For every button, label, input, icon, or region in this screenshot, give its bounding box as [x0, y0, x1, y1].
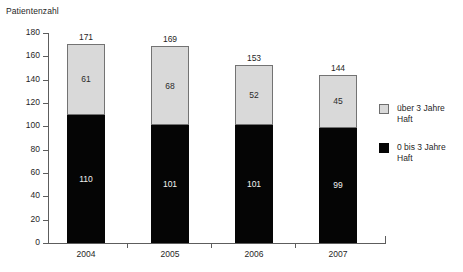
bar-segment-lower: 101: [151, 125, 189, 243]
y-axis-tick-label: 0: [35, 237, 40, 247]
chart-legend: über 3 JahreHaft0 bis 3 JahreHaft: [379, 103, 461, 181]
legend-item-label: 0 bis 3 Jahre: [397, 142, 461, 153]
y-axis-tick-label: 160: [26, 50, 40, 60]
bar-segment-upper-value: 68: [152, 81, 188, 91]
y-axis-tick-label: 100: [26, 120, 40, 130]
y-axis-tick: [43, 103, 48, 104]
bar-segment-lower: 110: [67, 115, 105, 243]
y-axis-tick-label: 180: [26, 27, 40, 37]
bar-segment-upper: 61: [67, 44, 105, 115]
y-axis-tick-label: 120: [26, 97, 40, 107]
plot-area: 180160140120100806040200 110611711016816…: [48, 33, 385, 243]
bar-segment-upper: 45: [319, 75, 357, 128]
legend-item-label: über 3 Jahre: [397, 103, 461, 114]
legend-swatch-black: [379, 143, 389, 153]
y-axis-tick: [43, 150, 48, 151]
bar-segment-lower-value: 101: [235, 179, 273, 189]
bar-total-value: 144: [319, 63, 357, 73]
bar-segment-lower: 99: [319, 128, 357, 244]
bar-total-value: 169: [151, 34, 189, 44]
y-axis-tick: [43, 126, 48, 127]
y-axis-tick: [43, 220, 48, 221]
x-axis-end-tick: [385, 236, 386, 244]
y-axis-tick-label: 60: [31, 167, 40, 177]
x-axis-tick: [127, 243, 128, 248]
x-axis-tick: [211, 243, 212, 248]
x-axis-category-label: 2006: [225, 249, 283, 259]
bar-total-value: 153: [235, 53, 273, 63]
legend-item-label-line2: Haft: [397, 114, 461, 125]
x-axis-category-label: 2007: [309, 249, 367, 259]
bar-stack: 11061171: [67, 44, 105, 244]
legend-item[interactable]: über 3 JahreHaft: [379, 103, 461, 124]
y-axis-tick-label: 40: [31, 190, 40, 200]
bar-segment-upper-value: 45: [320, 96, 356, 106]
legend-swatch-gray: [379, 104, 389, 114]
y-axis-tick-label: 140: [26, 74, 40, 84]
stacked-bar-chart: Patientenzahl 180160140120100806040200 1…: [0, 0, 463, 272]
y-axis-tick: [43, 33, 48, 34]
y-axis-tick: [43, 56, 48, 57]
legend-item[interactable]: 0 bis 3 JahreHaft: [379, 142, 461, 163]
bar-segment-upper-value: 61: [68, 74, 104, 84]
y-axis-tick: [43, 173, 48, 174]
bar-segment-upper: 68: [151, 46, 189, 125]
bar-segment-lower-value: 99: [319, 180, 357, 190]
x-axis-category-label: 2005: [141, 249, 199, 259]
x-axis-line: [48, 243, 386, 244]
x-axis-category-label: 2004: [57, 249, 115, 259]
bar-segment-lower-value: 110: [67, 174, 105, 184]
bar-stack: 9945144: [319, 75, 357, 243]
bar-segment-lower-value: 101: [151, 179, 189, 189]
y-axis-tick: [43, 243, 48, 244]
y-axis-line: [48, 33, 49, 244]
bar-segment-upper-value: 52: [236, 90, 272, 100]
chart-axis-title: Patientenzahl: [6, 6, 59, 16]
bar-segment-lower: 101: [235, 125, 273, 243]
bar-segment-upper: 52: [235, 65, 273, 126]
x-axis-tick: [295, 243, 296, 248]
legend-item-label-line2: Haft: [397, 153, 461, 164]
bar-stack: 10168169: [151, 46, 189, 243]
bar-total-value: 171: [67, 32, 105, 42]
y-axis-tick-label: 20: [31, 214, 40, 224]
y-axis-tick-label: 80: [31, 144, 40, 154]
y-axis-tick: [43, 196, 48, 197]
bar-stack: 10152153: [235, 65, 273, 244]
y-axis-tick: [43, 80, 48, 81]
